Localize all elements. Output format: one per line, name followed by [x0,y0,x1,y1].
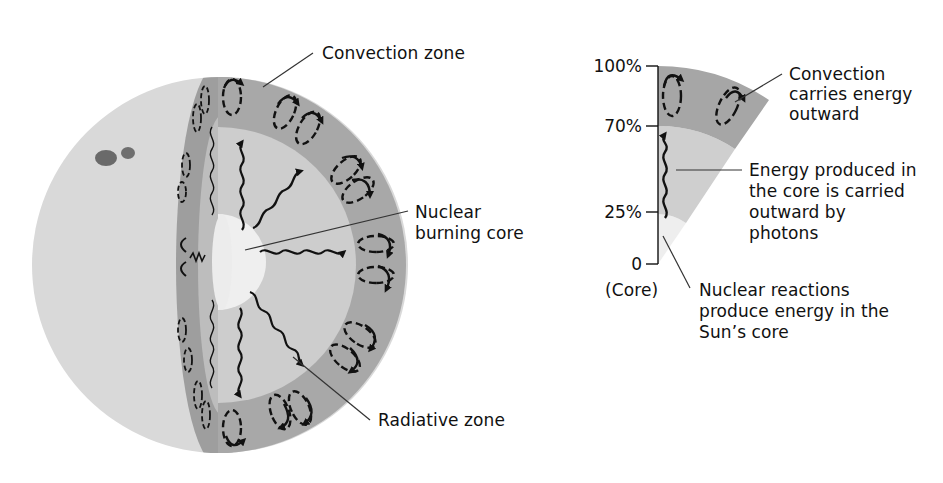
annotation-radiation-2: the core is carried [749,181,905,201]
label-radiative-zone: Radiative zone [378,410,505,430]
annotation-core-2: produce energy in the [699,301,889,321]
annotation-convection-2: carries energy [789,84,913,104]
annotation-radiation-3: outward by [749,202,846,222]
tick-70: 70% [582,116,642,136]
wedge-core [658,214,686,264]
tick-0: 0 [582,254,642,274]
annotation-convection-3: outward [789,104,859,124]
annotation-convection-1: Convection [789,64,885,84]
tick-25: 25% [582,202,642,222]
annotation-radiation-4: photons [749,223,818,243]
sun-interior-figure: Convection zone Nuclear burning core Rad… [0,0,943,483]
label-convection-zone: Convection zone [322,43,465,63]
axis-note-core: (Core) [605,280,658,300]
annotation-core-3: Sun’s core [699,322,789,342]
label-core-line1: Nuclear [415,202,481,222]
tick-100: 100% [582,56,642,76]
annotation-core-1: Nuclear reactions [699,280,850,300]
annotation-radiation-1: Energy produced in [749,160,917,180]
sun-cutaway [30,53,408,465]
label-core-line2: burning core [415,223,524,243]
